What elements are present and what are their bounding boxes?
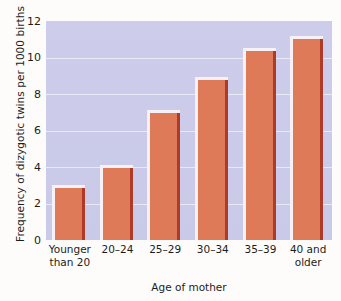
bar: [150, 112, 180, 240]
y-tick-label: 6: [21, 125, 41, 136]
plot-area: [46, 21, 332, 240]
bar: [55, 187, 85, 240]
y-tick-label: 12: [21, 16, 41, 27]
y-tick-label: 2: [21, 198, 41, 209]
x-axis-tick-labels: Youngerthan 2020–2425–2930–3435–3940 and…: [46, 243, 332, 283]
x-tick-label: 40 andolder: [278, 243, 338, 269]
x-tick-label-line: 40 and: [278, 243, 338, 256]
y-tick-label: 4: [21, 162, 41, 173]
x-tick-label-line: older: [278, 256, 338, 269]
bar: [198, 79, 228, 240]
bar: [293, 38, 323, 240]
x-tick-label-line: than 20: [40, 256, 100, 269]
bar-series: [46, 21, 332, 240]
y-tick-label: 10: [21, 52, 41, 63]
bar: [246, 50, 276, 240]
y-tick-label: 8: [21, 89, 41, 100]
bar: [103, 167, 133, 240]
y-axis-tick-labels: 024681012: [20, 0, 41, 301]
y-tick-label: 0: [21, 235, 41, 246]
bar-chart-figure: Frequency of dizygotic twins per 1000 bi…: [0, 0, 341, 301]
x-axis-title: Age of mother: [46, 281, 332, 293]
